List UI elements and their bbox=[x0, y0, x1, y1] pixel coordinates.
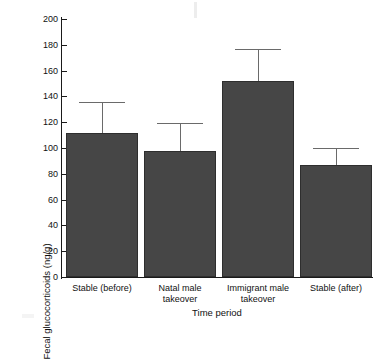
y-tick-label: 80 bbox=[0, 170, 58, 179]
error-bar-stem bbox=[180, 123, 181, 150]
error-bar-stem bbox=[336, 148, 337, 165]
y-tick-label: 40 bbox=[0, 221, 58, 230]
bar bbox=[300, 165, 372, 277]
bar bbox=[144, 151, 216, 277]
error-bar-stem bbox=[258, 49, 259, 81]
y-tick-label: 180 bbox=[0, 41, 58, 50]
y-tick-label: 60 bbox=[0, 196, 58, 205]
category-label: Stable (after) bbox=[281, 283, 382, 294]
error-bar-stem bbox=[102, 102, 103, 133]
error-bar-cap bbox=[313, 148, 359, 149]
y-tick-mark bbox=[62, 277, 67, 278]
y-tick-label: 0 bbox=[0, 273, 58, 282]
x-axis-title: Time period bbox=[61, 307, 373, 318]
scan-artifact-top bbox=[194, 2, 197, 18]
x-axis-line bbox=[61, 277, 373, 278]
error-bar-cap bbox=[157, 123, 203, 124]
plot-area bbox=[61, 19, 372, 277]
y-tick-label: 120 bbox=[0, 118, 58, 127]
bar bbox=[66, 133, 138, 277]
y-tick-label: 20 bbox=[0, 247, 58, 256]
y-tick-label: 160 bbox=[0, 67, 58, 76]
y-tick-label: 100 bbox=[0, 144, 58, 153]
scan-artifact-bottom-left bbox=[22, 314, 34, 318]
y-tick-label: 200 bbox=[0, 15, 58, 24]
error-bar-cap bbox=[235, 49, 281, 50]
y-tick-label: 140 bbox=[0, 92, 58, 101]
bar bbox=[222, 81, 294, 277]
error-bar-cap bbox=[79, 102, 125, 103]
